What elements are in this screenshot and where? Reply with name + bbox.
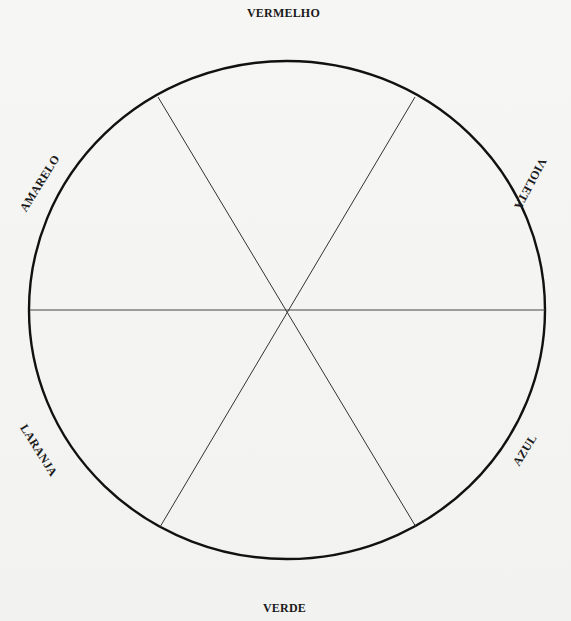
page-background: VERMELHO AMARELO VIOLETA LARANJA AZUL VE… [0,0,571,621]
color-wheel [0,0,571,621]
label-bottom: VERDE [263,601,306,616]
label-top: VERMELHO [247,6,320,21]
